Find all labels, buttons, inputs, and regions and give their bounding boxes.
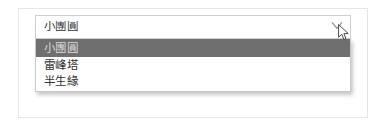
dropdown-listbox[interactable]: 小團圓 雷峰塔 半生緣 bbox=[35, 39, 351, 92]
combobox-selected-value[interactable]: 小團圓 bbox=[36, 21, 327, 33]
dropdown-option[interactable]: 雷峰塔 bbox=[36, 57, 350, 73]
combobox-input-field[interactable]: 小團圓 bbox=[35, 15, 351, 39]
dropdown-option[interactable]: 半生緣 bbox=[36, 73, 350, 91]
app-container: 小團圓 小團圓 雷峰塔 半生緣 bbox=[18, 8, 368, 118]
clear-chevron-icon[interactable] bbox=[327, 16, 347, 38]
dropdown-option[interactable]: 小團圓 bbox=[36, 39, 350, 57]
book-title-combobox[interactable]: 小團圓 小團圓 雷峰塔 半生緣 bbox=[35, 15, 351, 39]
